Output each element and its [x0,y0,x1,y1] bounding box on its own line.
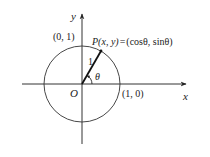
x-axis-label: x [182,90,188,102]
y-axis-label: y [70,10,76,22]
y-intercept-label: (0, 1) [53,31,75,43]
unit-circle-diagram: y x O (0, 1) (1, 0) 1 θ P(x, y)=(cosθ, s… [0,0,210,157]
point-p-value: (cosθ, sinθ) [126,36,172,48]
point-p-coords: (x, y) [98,36,119,48]
radius-label: 1 [88,56,93,67]
x-intercept-label: (1, 0) [122,88,144,100]
angle-arc [87,76,92,85]
point-p-name: P [91,36,98,47]
point-p-dot [100,50,103,53]
theta-label: θ [95,71,100,82]
origin-label: O [70,87,78,99]
point-p-eq: = [120,36,126,47]
point-p-label: P(x, y)=(cosθ, sinθ) [91,36,173,48]
